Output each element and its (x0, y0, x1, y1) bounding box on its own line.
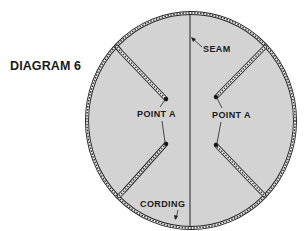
cording-label: CORDING (140, 200, 185, 209)
point-a-left-label: POINT A (137, 110, 176, 119)
point-a-right-label: POINT A (212, 111, 251, 120)
point-a-dot (164, 142, 168, 146)
diagram-canvas: DIAGRAM 6 SEAM POINT A POINT A CORDING (0, 0, 307, 231)
diagram-title: DIAGRAM 6 (10, 60, 81, 73)
seam-label: SEAM (203, 45, 231, 54)
point-a-dot (214, 143, 218, 147)
